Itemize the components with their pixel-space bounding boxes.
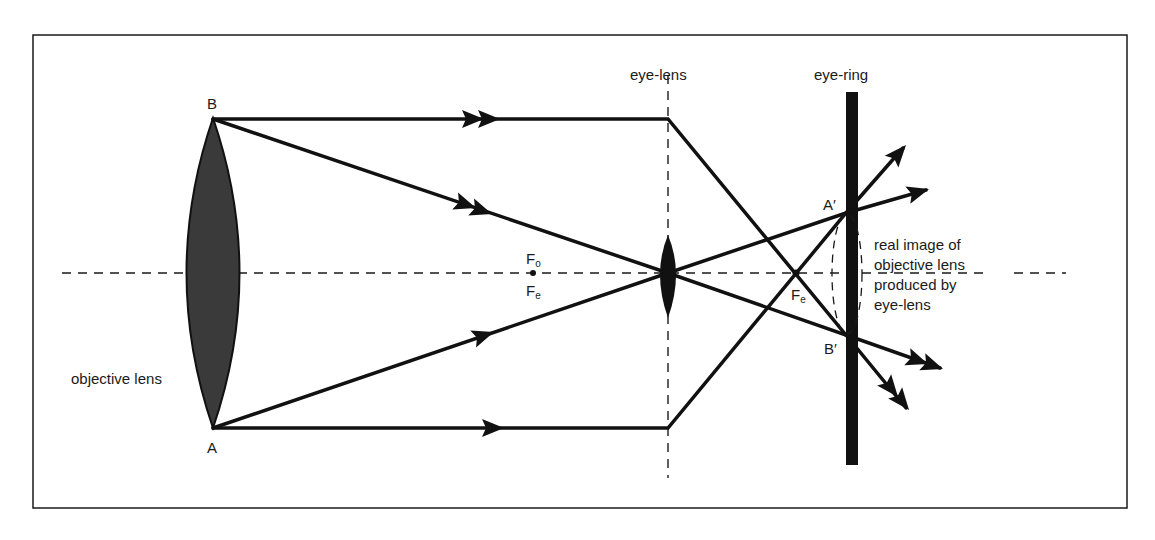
label-a-prime: A′ [823,196,836,213]
label-fe-left: Fe [526,282,541,301]
ray-a-central [213,190,926,428]
label-a: A [207,439,217,456]
annotation-real-image: real image of objective lens produced by… [874,236,965,313]
focal-point-fe-right [793,270,800,277]
focal-point-fo [530,270,536,276]
label-objective-lens: objective lens [71,370,162,387]
label-b: B [207,95,217,112]
label-eye-lens: eye-lens [630,66,687,83]
label-eye-ring: eye-ring [814,66,868,83]
svg-text:eye-lens: eye-lens [874,296,931,313]
label-fo: Fo [526,250,541,269]
double-arrow-icon [468,198,495,222]
label-b-prime: B′ [824,340,837,357]
arrow-icon [905,180,931,203]
telescope-ray-diagram: B A objective lens eye-lens eye-ring Fo … [0,0,1155,540]
arrow-icon [470,323,497,347]
eye-ring-stop [846,92,858,465]
objective-lens-shape [187,118,240,428]
svg-text:produced by: produced by [874,276,957,293]
double-arrow-icon [919,353,946,377]
svg-text:real image of: real image of [874,236,962,253]
svg-text:objective lens: objective lens [874,256,965,273]
label-fe-right: Fe [791,286,806,305]
